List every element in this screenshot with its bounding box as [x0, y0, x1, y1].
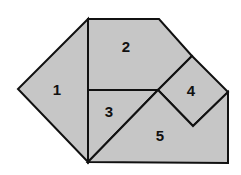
diagram-svg: 1 2 3 4 5	[0, 0, 241, 175]
piece-4-label: 4	[187, 82, 196, 99]
piece-5-label: 5	[156, 127, 164, 144]
tangram-diagram: 1 2 3 4 5	[0, 0, 241, 175]
piece-3-label: 3	[105, 103, 113, 120]
piece-1-label: 1	[53, 81, 61, 98]
piece-2-label: 2	[122, 38, 130, 55]
